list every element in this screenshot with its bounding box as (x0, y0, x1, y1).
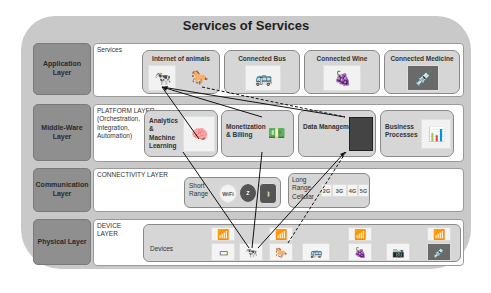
layer-label-physical: Physical Layer (33, 219, 91, 265)
cow-icon: 🐄 (148, 65, 176, 91)
wifi-icon: WiFi (219, 184, 237, 203)
card-title: Monetization & Billing (226, 123, 262, 140)
service-card-connected-medicine: Connected Medicine 💉 (384, 50, 460, 94)
layer-label-text: Middle-Ware Layer (34, 124, 90, 142)
tech-label: 5G (360, 188, 367, 194)
diagram-title: Services of Services (21, 18, 471, 33)
card-title: Connected Bus (225, 55, 299, 62)
device-panel: DEVICE LAYER Devices 📶 ▭ 🐄 📶 🐎 🚌 📶 🍇 📷 📶… (93, 219, 464, 266)
long-range-card: Long Range Cellular 2G 3G 4G 5G (288, 173, 370, 208)
tech-label: 3G (336, 188, 343, 194)
layer-label-text: Physical Layer (37, 238, 86, 247)
panel-title: DEVICE LAYER (97, 222, 137, 239)
card-title: Business Processes (385, 123, 421, 140)
bus-icon: 🚌 (245, 65, 281, 91)
cellular-5g: 5G (358, 184, 369, 197)
short-range-card: Short Range WiFi Z ᛒ (184, 177, 281, 208)
platform-card-monetization: Monetization & Billing 💵 (221, 110, 294, 157)
platform-panel: PLATFORM LAYER (Orchestration, Integrati… (93, 104, 464, 162)
panel-title: CONNECTIVITY LAYER (97, 171, 177, 179)
devices-card: Devices 📶 ▭ 🐄 📶 🐎 🚌 📶 🍇 📷 📶 💉 (143, 224, 461, 262)
devices-label: Devices (150, 245, 173, 253)
router-icon: 📶 (211, 227, 235, 241)
cellular-2g: 2G (321, 184, 332, 197)
card-title: Connected Medicine (385, 55, 459, 62)
camera-icon: 📷 (386, 243, 410, 261)
cow-icon: 🐄 (239, 243, 263, 261)
platform-card-data-management: Data Management (298, 110, 376, 157)
layer-label-middleware: Middle-Ware Layer (33, 104, 91, 161)
horse-icon: 🐎 (269, 243, 293, 261)
services-panel: Services Internet of animals 🐄 🐎 Connect… (93, 43, 464, 97)
card-title: Connected Wine (305, 55, 379, 62)
brain-heads-icon: 🧠 (183, 116, 215, 152)
zigbee-icon: Z (239, 183, 257, 203)
layer-label-text: Application Layer (34, 60, 90, 78)
medicine-icon: 💉 (427, 243, 451, 261)
cellular-3g: 3G (332, 184, 347, 197)
horse-icon: 🐎 (185, 65, 213, 89)
sensor-tag-icon: ▭ (211, 243, 235, 261)
router-icon: 📶 (427, 227, 451, 241)
grapes-icon: 🍇 (323, 65, 361, 91)
card-title: Internet of animals (143, 55, 219, 62)
connectivity-panel: CONNECTIVITY LAYER Short Range WiFi Z ᛒ … (93, 168, 464, 212)
long-range-label: Long Range Cellular (292, 176, 320, 201)
money-icon: 💵 (262, 117, 290, 149)
router-icon: 📶 (348, 227, 372, 241)
tech-label: WiFi (222, 191, 234, 197)
card-title: Analytics & Machine Learning (149, 117, 181, 151)
platform-card-analytics: Analytics & Machine Learning 🧠 (144, 110, 218, 157)
tech-label: 4G (349, 188, 356, 194)
layer-label-application: Application Layer (33, 43, 91, 95)
grapes-icon: 🍇 (348, 243, 372, 261)
service-card-connected-wine: Connected Wine 🍇 (304, 50, 380, 94)
panel-title: Services (97, 46, 122, 54)
platform-card-business-processes: Business Processes 📊 (380, 110, 454, 157)
short-range-label: Short Range (189, 182, 213, 199)
cellular-4g: 4G (347, 184, 358, 197)
service-card-internet-of-animals: Internet of animals 🐄 🐎 (142, 50, 220, 94)
bluetooth-icon: ᛒ (259, 183, 277, 204)
server-doors-icon (349, 117, 373, 151)
tech-label: 2G (323, 188, 330, 194)
medicine-icon: 💉 (407, 65, 439, 91)
business-icon: 📊 (421, 119, 451, 149)
service-card-connected-bus: Connected Bus 🚌 (224, 50, 300, 94)
layer-label-communication: Communication Layer (33, 168, 91, 212)
router-icon: 📶 (269, 227, 293, 241)
layer-label-text: Communication Layer (34, 181, 90, 199)
bus-icon: 🚌 (302, 243, 330, 261)
